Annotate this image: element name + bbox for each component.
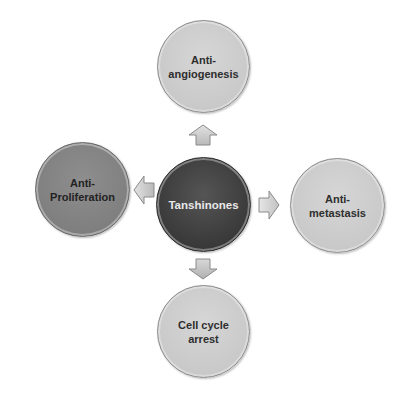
node-label-line1: Anti- [44,176,121,190]
center-node-tanshinones: Tanshinones [156,157,251,252]
node-label-line1: Cell cycle [172,318,235,332]
node-anti-proliferation: Anti- Proliferation [35,142,130,237]
node-label-line2: Proliferation [44,190,121,204]
node-label-line2: angiogenesis [162,67,244,81]
node-label-line2: metastasis [303,206,372,220]
node-cell-cycle-arrest: Cell cycle arrest [157,285,250,378]
arrow-left-icon [133,175,155,205]
node-anti-metastasis: Anti- metastasis [290,158,385,253]
node-label-line2: arrest [172,332,235,346]
arrow-up-icon [188,124,218,146]
arrow-right-icon [258,190,280,220]
node-label-line1: Anti- [303,192,372,206]
node-anti-angiogenesis: Anti- angiogenesis [157,20,250,113]
node-label-line1: Anti- [162,53,244,67]
arrow-down-icon [188,258,218,280]
center-label: Tanshinones [162,198,244,212]
